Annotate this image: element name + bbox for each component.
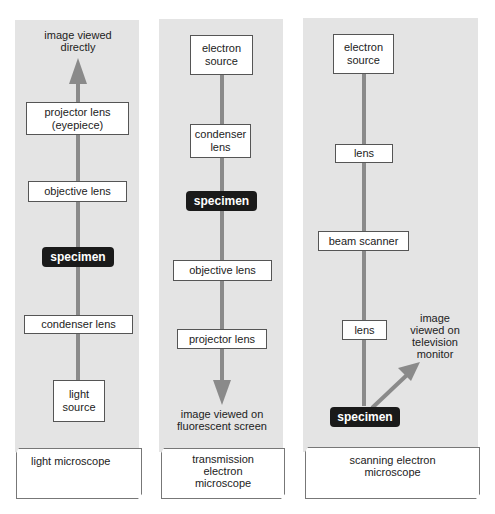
light-objective-lens: objective lens	[28, 181, 127, 202]
tem-projector-lens: projector lens	[177, 329, 267, 349]
sem-specimen: specimen	[330, 407, 400, 427]
light-source: light source	[53, 380, 105, 422]
sem-lens-1: lens	[335, 144, 393, 163]
arrow-down-icon	[213, 380, 231, 405]
tem-condenser-lens: condenser lens	[190, 124, 251, 158]
tem-objective-lens: objective lens	[173, 260, 272, 281]
light-output-text: image viewed directly	[28, 29, 128, 53]
tem-electron-source: electron source	[190, 35, 253, 75]
arrow-up-icon	[69, 58, 87, 84]
light-specimen: specimen	[42, 247, 114, 267]
sem-beam-scanner: beam scanner	[318, 231, 409, 251]
sem-label: scanning electron microscope	[305, 447, 480, 499]
tem-output-text: image viewed on fluorescent screen	[170, 408, 274, 432]
light-condenser-lens: condenser lens	[24, 315, 133, 334]
light-microscope-label: light microscope	[16, 448, 142, 499]
tem-label: transmission electron microscope	[161, 448, 285, 499]
sem-output-text: image viewed on television monitor	[400, 312, 470, 360]
light-projector-lens: projector lens (eyepiece)	[26, 102, 129, 135]
sem-electron-source: electron source	[333, 34, 394, 74]
tem-specimen: specimen	[186, 191, 257, 211]
sem-lens-2: lens	[342, 320, 387, 340]
